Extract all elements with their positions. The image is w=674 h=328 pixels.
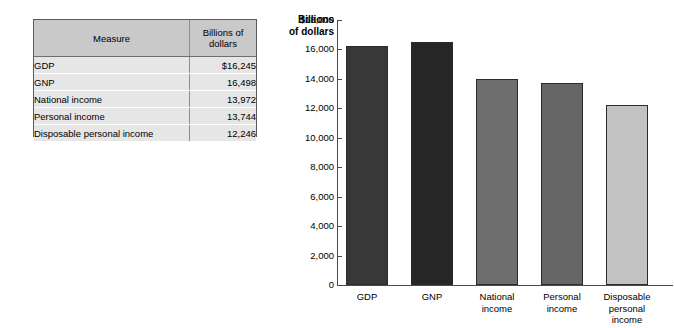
y-axis-tick-label: 10,000 <box>305 132 334 144</box>
y-axis-tick-label: 12,000 <box>305 102 334 114</box>
cell-measure-national-income: National income <box>34 91 190 108</box>
y-axis-tick-label: 14,000 <box>305 73 334 85</box>
bar-4 <box>541 83 583 285</box>
y-axis-tick: 10,000 <box>264 132 344 144</box>
plot-area <box>338 20 673 285</box>
cell-measure-gdp: GDP <box>34 57 190 74</box>
cell-measure-personal-income: Personal income <box>34 108 190 125</box>
x-axis-label-3: National income <box>465 291 529 314</box>
y-axis-tick-label: 8,000 <box>310 161 334 173</box>
y-axis-tick: 0 <box>264 279 344 291</box>
bar-3 <box>476 79 518 285</box>
y-axis-tick-label: 0 <box>329 279 334 291</box>
bar-chart: Billions of dollars $18,00016,00014,0001… <box>264 10 674 328</box>
y-axis-tick-label: 4,000 <box>310 220 334 232</box>
y-axis-tick-label: 16,000 <box>305 43 334 55</box>
y-axis-tick: 14,000 <box>264 73 344 85</box>
y-axis-tick-mark <box>338 285 342 286</box>
y-axis-tick: 2,000 <box>264 250 344 262</box>
cell-value-national-income: 13,972 <box>190 91 257 108</box>
table-row: Personal income 13,744 <box>34 108 256 125</box>
y-axis-tick: 6,000 <box>264 191 344 203</box>
cell-measure-disposable-personal-income: Disposable personal income <box>34 125 190 142</box>
bar-2 <box>411 42 453 285</box>
x-axis-line <box>337 285 673 286</box>
x-axis-label-5: Disposable personal income <box>595 291 659 326</box>
cell-value-disposable-personal-income: 12,246 <box>190 125 257 142</box>
cell-measure-gnp: GNP <box>34 74 190 91</box>
column-header-measure: Measure <box>34 20 190 57</box>
table-row: National income 13,972 <box>34 91 256 108</box>
bar-1 <box>346 46 388 285</box>
cell-value-gnp: 16,498 <box>190 74 257 91</box>
table-header: Measure Billions of dollars <box>34 20 256 57</box>
table-header-row: Measure Billions of dollars <box>34 20 256 57</box>
y-axis-tick-label: $18,000 <box>300 14 334 26</box>
y-axis-tick-label: 2,000 <box>310 250 334 262</box>
y-axis-tick: 4,000 <box>264 220 344 232</box>
y-axis-tick: 12,000 <box>264 102 344 114</box>
measure-table-panel: Measure Billions of dollars GDP $16,245 … <box>33 19 257 137</box>
measure-table: Measure Billions of dollars GDP $16,245 … <box>34 20 256 141</box>
y-axis-tick: 8,000 <box>264 161 344 173</box>
table-row: Disposable personal income 12,246 <box>34 125 256 142</box>
bar-5 <box>606 105 648 285</box>
table-row: GNP 16,498 <box>34 74 256 91</box>
x-axis-label-4: Personal income <box>530 291 594 314</box>
x-axis-label-2: GNP <box>400 291 464 303</box>
column-header-billions-of-dollars: Billions of dollars <box>190 20 257 57</box>
cell-value-personal-income: 13,744 <box>190 108 257 125</box>
table-body: GDP $16,245 GNP 16,498 National income 1… <box>34 57 256 142</box>
x-axis-label-1: GDP <box>335 291 399 303</box>
table-row: GDP $16,245 <box>34 57 256 74</box>
cell-value-gdp: $16,245 <box>190 57 257 74</box>
y-axis-tick: 16,000 <box>264 43 344 55</box>
y-axis-tick: $18,000 <box>264 14 344 26</box>
y-axis-tick-label: 6,000 <box>310 191 334 203</box>
